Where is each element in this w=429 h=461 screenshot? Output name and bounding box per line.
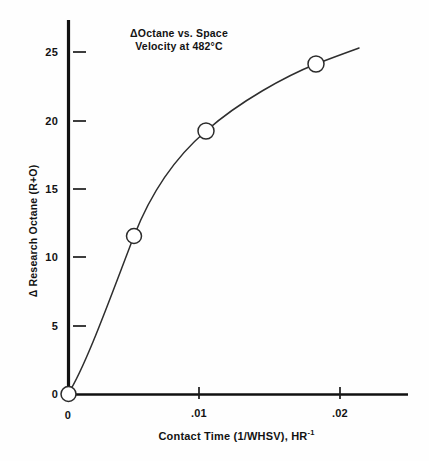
chart-plot-area bbox=[0, 0, 429, 461]
chart-title: ΔOctane vs. Space Velocity at 482°C bbox=[104, 27, 254, 53]
data-point-origin bbox=[61, 387, 76, 402]
x-axis-title-text: Contact Time (1/WHSV), HR bbox=[158, 430, 307, 442]
x-tick-marks bbox=[199, 387, 340, 399]
data-point-1 bbox=[127, 229, 142, 244]
y-tick-label-25: 25 bbox=[24, 46, 58, 58]
chart-title-line-2: Velocity at 482°C bbox=[104, 40, 254, 53]
x-axis-title-exponent: -1 bbox=[307, 428, 314, 437]
x-axis-title: Contact Time (1/WHSV), HR-1 bbox=[64, 430, 409, 442]
y-tick-label-15: 15 bbox=[24, 183, 58, 195]
y-axis-title: Δ Research Octane (R+O) bbox=[27, 136, 39, 326]
chart-title-line-1: ΔOctane vs. Space bbox=[104, 27, 254, 40]
y-tick-label-5: 5 bbox=[24, 320, 58, 332]
x-tick-label-002: .02 bbox=[318, 407, 362, 419]
data-curve bbox=[68, 48, 359, 394]
x-tick-label-0: 0 bbox=[46, 409, 90, 421]
y-tick-label-0: 0 bbox=[24, 388, 58, 400]
x-tick-label-001: .01 bbox=[177, 407, 221, 419]
y-tick-marks bbox=[73, 52, 86, 326]
y-tick-label-10: 10 bbox=[24, 251, 58, 263]
data-point-2 bbox=[198, 123, 214, 139]
data-point-3 bbox=[308, 56, 324, 72]
y-tick-label-20: 20 bbox=[24, 115, 58, 127]
data-point-markers bbox=[61, 56, 324, 402]
chart-figure: ΔOctane vs. Space Velocity at 482°C Δ Re… bbox=[0, 0, 429, 461]
